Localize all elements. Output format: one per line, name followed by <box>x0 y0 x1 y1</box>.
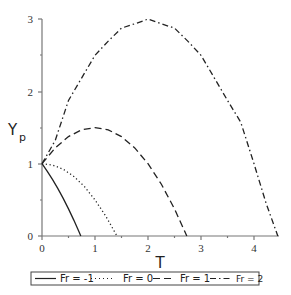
y-axis-title-sub: p <box>19 131 26 144</box>
series-fr-neg1 <box>42 164 81 236</box>
legend: Fr = -1 Fr = 0 Fr = 1 Fr = 2 <box>31 272 263 285</box>
ytick-1: 1 <box>28 158 34 170</box>
xtick-1: 1 <box>92 242 98 254</box>
svg-text:Fr = -1: Fr = -1 <box>60 273 94 284</box>
y-tick-labels: 0 1 2 3 <box>28 13 34 242</box>
ytick-2: 2 <box>28 86 34 98</box>
ytick-3: 3 <box>28 13 34 25</box>
y-axis-title: Y p <box>7 121 26 144</box>
series-fr-0 <box>42 164 117 236</box>
y-axis-title-main: Y <box>7 121 18 139</box>
ytick-0: 0 <box>28 230 34 242</box>
x-tick-labels: 0 1 2 3 4 <box>39 242 257 254</box>
xtick-0: 0 <box>39 242 45 254</box>
xtick-2: 2 <box>145 242 151 254</box>
series-fr-1 <box>42 128 187 236</box>
xtick-4: 4 <box>251 242 257 254</box>
svg-text:Fr = 2: Fr = 2 <box>236 274 263 284</box>
xtick-3: 3 <box>198 242 204 254</box>
series <box>42 19 278 236</box>
x-axis-title: T <box>154 254 165 272</box>
chart: 0 1 2 3 0 1 2 3 4 T Y p Fr = -1 <box>0 0 291 295</box>
svg-text:Fr = 1: Fr = 1 <box>180 273 210 284</box>
series-fr-2 <box>42 19 278 236</box>
svg-text:Fr = 0: Fr = 0 <box>123 273 153 284</box>
